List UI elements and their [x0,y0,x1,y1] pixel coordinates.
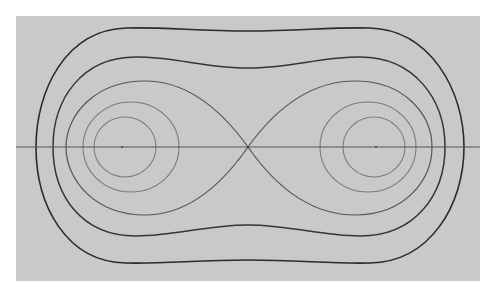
saddle-point [247,146,249,148]
right-center-point [375,146,377,148]
phase-portrait-diagram [0,0,501,290]
diagram-panel [16,16,480,281]
left-center-point [121,146,123,148]
